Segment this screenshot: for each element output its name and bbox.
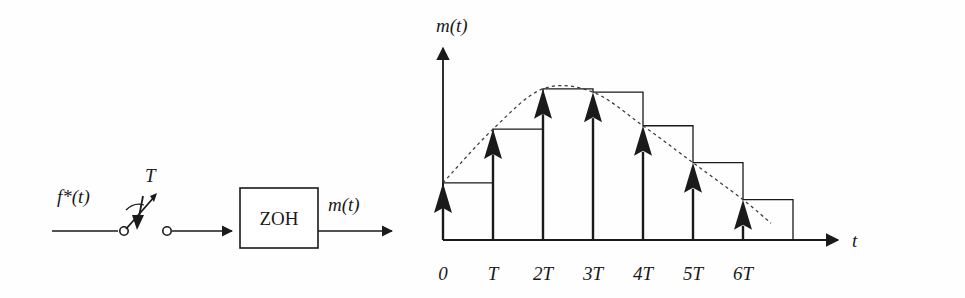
x-tick-label: T [488, 263, 500, 284]
y-axis-label: m(t) [436, 15, 468, 37]
sampled-signal-plot: m(t) t 0T2T3T4T5T6T [420, 0, 965, 298]
x-tick-labels: 0T2T3T4T5T6T [438, 263, 754, 284]
zoh-block-label: ZOH [259, 208, 298, 229]
impulse-arrowhead-icon [734, 200, 752, 230]
x-axis-label: t [852, 230, 858, 251]
x-tick-label: 3T [582, 263, 605, 284]
x-tick-label: 5T [683, 263, 705, 284]
sampler-right-contact [163, 227, 171, 235]
x-tick-label: 0 [438, 263, 448, 284]
figure-root: f*(t) T ZOH m(t) m(t) t 0T2T3T4T5T6T [0, 0, 965, 298]
sampler-arrow-down-icon [132, 215, 144, 230]
impulse-arrowhead-icon [584, 92, 602, 122]
x-tick-label: 6T [733, 263, 755, 284]
x-tick-label: 2T [533, 263, 555, 284]
impulse-series [434, 89, 752, 240]
block-diagram: f*(t) T ZOH m(t) [0, 0, 430, 298]
impulse-arrowhead-icon [684, 163, 702, 193]
sampler-period-label: T [145, 165, 157, 186]
zoh-output-label: m(t) [328, 194, 360, 216]
input-label: f*(t) [57, 186, 90, 208]
x-tick-label: 4T [633, 263, 655, 284]
